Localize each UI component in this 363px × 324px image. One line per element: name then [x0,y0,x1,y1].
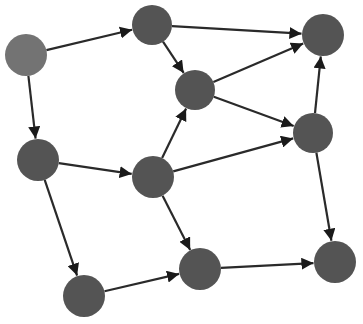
edges-layer [28,26,331,291]
edge-n7-to-n8 [105,274,180,291]
edge-n0-to-n5 [28,76,35,139]
graph-node-n1 [132,5,172,45]
edge-n1-to-n3 [172,26,302,34]
edge-n5-to-n6 [59,163,132,174]
graph-node-n3 [302,14,344,56]
graph-node-n0 [5,34,47,76]
edge-n0-to-n1 [46,30,132,50]
nodes-layer [5,5,356,317]
edge-n4-to-n9 [316,153,331,241]
graph-node-n6 [132,156,174,198]
edge-n2-to-n3 [213,44,303,83]
graph-node-n2 [175,70,215,110]
directed-graph-diagram [0,0,363,324]
edge-n8-to-n9 [221,263,314,268]
edge-n4-to-n3 [315,56,321,113]
graph-node-n7 [63,275,105,317]
edge-n2-to-n4 [214,97,294,126]
graph-node-n5 [17,139,59,181]
graph-node-n8 [179,248,221,290]
graph-node-n4 [293,113,333,153]
edge-n1-to-n2 [163,42,184,73]
edge-n6-to-n2 [162,109,186,159]
edge-n6-to-n4 [173,138,293,171]
graph-node-n9 [314,241,356,283]
edge-n6-to-n8 [163,196,191,250]
edge-n5-to-n7 [45,180,77,276]
